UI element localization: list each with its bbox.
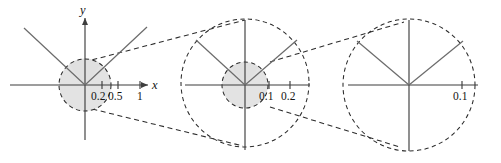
panel-2-ticklabel-0: 0.1 [259, 90, 274, 102]
panel-1-y-axis-arrow [82, 18, 88, 25]
panel-3-ray-right [409, 41, 463, 85]
panel-1-x-axis-label: x [151, 78, 158, 92]
cone-line-1-lower [84, 107, 243, 146]
figure-root: 0.2 0.5 1 x y [0, 0, 501, 163]
panel-2-ticklabel-1: 0.2 [281, 90, 296, 102]
panel-1-ray-right [85, 27, 147, 85]
panel-3: 0.1 [343, 19, 478, 151]
cone-line-2-upper [270, 22, 404, 62]
panel-1-y-axis-label: y [78, 3, 86, 17]
panel-1-x-axis-arrow [141, 82, 148, 88]
panel-1-ticklabel-1: 0.5 [108, 90, 123, 102]
panel-2-ray-left [196, 40, 245, 85]
panel-2: 0.1 0.2 [181, 19, 310, 150]
panel-3-ray-left [357, 41, 409, 85]
panel-3-ticklabel-0: 0.1 [453, 90, 468, 102]
panel-1-ticklabel-2: 1 [137, 90, 143, 102]
panel-1-ray-left [24, 28, 85, 85]
cone-line-2-lower [270, 107, 400, 147]
cone-line-1-upper [84, 20, 245, 62]
zoom-diagram: 0.2 0.5 1 x y [0, 0, 501, 163]
panel-2-ray-right [245, 40, 297, 85]
panel-1-ticklabel-0: 0.2 [91, 90, 106, 102]
